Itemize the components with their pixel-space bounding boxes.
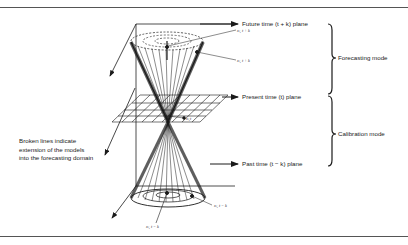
mode-braces — [328, 24, 336, 166]
forecasting-mode-label: Forecasting mode — [338, 55, 388, 61]
point-label-future-edge: xₗ, t + k — [237, 58, 250, 63]
past-plane-label: Past time (t − k) plane — [242, 161, 302, 167]
point-label-past-edge: xₗ, t − k — [214, 203, 227, 208]
upper-cone — [131, 30, 236, 122]
point-label-future-center: xₗ, t + k — [237, 28, 250, 33]
point-label-past-center: xₗ, t − k — [146, 224, 159, 229]
cone-diagram — [0, 0, 408, 245]
broken-lines-note: Broken lines indicate extension of the m… — [19, 137, 93, 163]
calibration-mode-label: Calibration mode — [338, 131, 385, 137]
note-line-1: Broken lines indicate — [19, 137, 93, 146]
present-plane-label: Present time (t) plane — [242, 94, 301, 100]
plane-arrows — [200, 24, 238, 164]
point-label-present: xₗ,t — [186, 116, 191, 121]
lower-cone — [131, 122, 212, 223]
future-plane-label: Future time (t + k) plane — [242, 21, 308, 27]
axis-frame — [136, 24, 235, 186]
note-line-3: into the forecasting domain — [19, 154, 93, 163]
diagonal-arrows — [105, 24, 136, 218]
note-line-2: extension of the models — [19, 146, 93, 155]
